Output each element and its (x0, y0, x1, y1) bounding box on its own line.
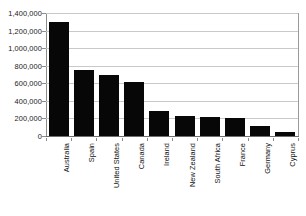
x-axis-tick-mark (197, 138, 198, 141)
y-axis-tick-mark (42, 136, 46, 137)
y-axis-tick-label: 1,200,000 (8, 26, 42, 35)
bar (175, 116, 195, 136)
y-axis-tick-mark (42, 83, 46, 84)
x-axis-tick-mark (96, 138, 97, 141)
bar (99, 75, 119, 136)
x-axis-tick-mark (273, 138, 274, 141)
bar (149, 111, 169, 136)
x-axis-line (46, 136, 299, 137)
x-axis-tick-mark (122, 138, 123, 141)
bar (74, 70, 94, 136)
bar (124, 82, 144, 136)
y-axis-tick-mark (42, 31, 46, 32)
x-axis-tick-mark (46, 138, 47, 141)
x-axis-category-label: United States (112, 143, 121, 188)
x-axis-tick-mark (248, 138, 249, 141)
x-axis-tick-mark (147, 138, 148, 141)
x-axis-category-label: Cyprus (288, 143, 297, 167)
y-axis-tick-mark (42, 13, 46, 14)
bar (49, 22, 69, 136)
y-axis-tick-mark (42, 66, 46, 67)
x-axis-category-label: Spain (87, 143, 96, 162)
x-axis-category-label: Canada (137, 143, 146, 169)
bars-layer (46, 13, 298, 136)
x-axis-category-label: Ireland (162, 143, 171, 166)
x-axis-category-label: Germany (263, 143, 272, 174)
x-axis-category-label: Australia (62, 143, 71, 172)
x-axis-category-label: France (238, 143, 247, 166)
y-axis-tick-mark (42, 118, 46, 119)
y-axis-tick-label: 400,000 (15, 96, 42, 105)
y-axis-labels: 0200,000400,000600,000800,0001,000,0001,… (0, 0, 45, 136)
x-axis-category-label: South Africa (213, 143, 222, 183)
y-axis-tick-label: 1,400,000 (8, 9, 42, 18)
x-axis-tick-mark (222, 138, 223, 141)
bar (200, 117, 220, 136)
y-axis-tick-mark (42, 101, 46, 102)
bar (225, 118, 245, 136)
x-axis-category-label: New Zealand (188, 143, 197, 187)
x-axis-tick-mark (172, 138, 173, 141)
x-axis-tick-mark (71, 138, 72, 141)
x-axis-tick-mark (298, 138, 299, 141)
bar (250, 126, 270, 136)
x-axis-labels: AustraliaSpainUnited StatesCanadaIreland… (46, 138, 298, 216)
y-axis-tick-mark (42, 48, 46, 49)
y-axis-tick-label: 200,000 (15, 114, 42, 123)
y-axis-tick-label: 1,000,000 (8, 44, 42, 53)
y-axis-tick-label: 800,000 (15, 61, 42, 70)
y-axis-tick-label: 600,000 (15, 79, 42, 88)
bar-chart: 0200,000400,000600,000800,0001,000,0001,… (0, 0, 306, 216)
